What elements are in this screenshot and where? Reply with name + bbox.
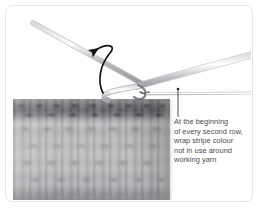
caption-line-1: At the beginning [174,117,250,127]
caption-line-5: working yarn [174,155,250,165]
working-yarn-strand [33,23,141,83]
caption-leader-line [177,88,180,117]
caption-line-2: of every second row, [174,127,250,137]
caption-text: At the beginning of every second row, wr… [174,117,250,165]
caption-line-4: not in use around [174,146,250,156]
photo-overlay [7,7,251,200]
caption-line-3: wrap stripe colour [174,136,250,146]
instructional-figure: At the beginning of every second row, wr… [0,0,259,208]
wrap-direction-arrow [96,46,112,93]
photo-area: At the beginning of every second row, wr… [7,7,251,200]
stripe-colour-yarn-strand [147,93,251,94]
